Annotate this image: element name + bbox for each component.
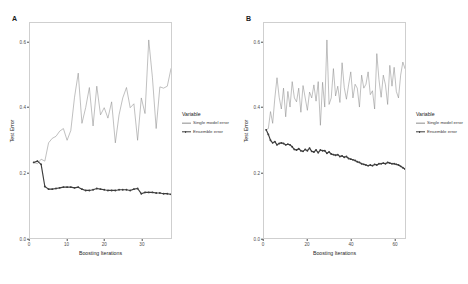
panel-b-point-ensemble-error [272, 142, 274, 144]
panel-a-series-group [33, 40, 171, 195]
panel-b-legend-label-ensemble: Ensemble error [427, 130, 457, 134]
panel-b-point-ensemble-error [382, 162, 384, 164]
panel-b-point-ensemble-error [306, 150, 308, 152]
panel-b-point-ensemble-error [402, 167, 404, 169]
panel-a-xtick-30: 30 [139, 242, 144, 247]
panel-b-point-ensemble-error [283, 143, 285, 145]
panel-b-legend: Variable Single model error Ensemble err… [416, 112, 468, 137]
panel-b-point-ensemble-error [372, 165, 374, 167]
panel-a-point-ensemble-error [51, 188, 53, 190]
panel-a-point-ensemble-error [36, 160, 38, 162]
panel-b-point-ensemble-error [354, 160, 356, 162]
panel-b-point-ensemble-error [315, 149, 317, 151]
panel-b-point-ensemble-error [400, 165, 402, 167]
panel-a-point-ensemble-error [48, 188, 50, 190]
panel-b-point-ensemble-error [304, 148, 306, 150]
panel-a-point-ensemble-error [85, 190, 87, 192]
panel-b-point-ensemble-error [293, 148, 295, 150]
panel-b-point-ensemble-error [395, 163, 397, 165]
panel-b-point-ensemble-error [332, 154, 334, 156]
panel-a-point-ensemble-error [155, 192, 157, 194]
panel-a-point-ensemble-error [77, 186, 79, 188]
panel-b-x-axis-title: Boosting Iterations [263, 250, 406, 256]
panel-a-xtickmark-0 [29, 239, 30, 241]
panel-a-legend-label-single: Single model error [193, 121, 229, 125]
panel-a-point-ensemble-error [114, 190, 116, 192]
panel-b-tag: B [246, 15, 251, 22]
panel-b-point-ensemble-error [309, 147, 311, 149]
panel-b-y-axis-title-wrap: Test Error [251, 22, 252, 239]
panel-b-point-ensemble-error [385, 163, 387, 165]
panel-b-point-ensemble-error [328, 151, 330, 153]
panel-a-point-ensemble-error [159, 192, 161, 194]
panel-a-xtick-10: 10 [64, 242, 69, 247]
panel-a-point-ensemble-error [92, 189, 94, 191]
panel-b-point-ensemble-error [322, 150, 324, 152]
panel-b-point-ensemble-error [330, 153, 332, 155]
panel-b-point-ensemble-error [267, 133, 269, 135]
panel-b-point-ensemble-error [356, 161, 358, 163]
panel-a-point-ensemble-error [163, 193, 165, 195]
panel-a-point-ensemble-error [96, 188, 98, 190]
panel-a-plot-area [29, 22, 172, 239]
panel-a-legend-item-single-model-error[interactable]: Single model error [182, 120, 234, 126]
panel-b-point-ensemble-error [380, 163, 382, 165]
panel-a-x-axis-title: Boosting Iterations [29, 250, 172, 256]
panel-b-legend-item-ensemble-error[interactable]: Ensemble error [416, 129, 468, 135]
single-model-error-line-icon [416, 120, 425, 126]
panel-a-plot-svg [30, 23, 171, 238]
panel-a-xtickmark-30 [142, 239, 143, 241]
panel-b-point-ensemble-error [389, 162, 391, 164]
panel-a-point-ensemble-error [122, 189, 124, 191]
panel-b-legend-item-single-model-error[interactable]: Single model error [416, 120, 468, 126]
panel-b-series-group [265, 40, 405, 170]
panel-b-point-ensemble-error [341, 155, 343, 157]
panel-a-legend-item-ensemble-error[interactable]: Ensemble error [182, 129, 234, 135]
panel-a-point-ensemble-error [74, 187, 76, 189]
panel-b-point-ensemble-error [296, 149, 298, 151]
panel-a-point-ensemble-error [166, 193, 168, 195]
panel-a-legend-label-ensemble: Ensemble error [193, 130, 223, 134]
panel-a-point-ensemble-error [70, 186, 72, 188]
panel-b-point-ensemble-error [270, 139, 272, 141]
panel-a-xtick-0: 0 [28, 242, 31, 247]
panel-b-point-ensemble-error [298, 148, 300, 150]
panel-b-line-single-model-error [266, 40, 405, 130]
panel-a-y-axis-title-wrap: Test Error [17, 22, 18, 239]
panel-a-legend: Variable Single model error Ensemble err… [182, 112, 234, 137]
panel-a-point-ensemble-error [126, 189, 128, 191]
panel-b-point-ensemble-error [352, 159, 354, 161]
panel-b-point-ensemble-error [300, 150, 302, 152]
panel-a-point-ensemble-error [137, 188, 139, 190]
panel-a-point-ensemble-error [107, 190, 109, 192]
panel-b-point-ensemble-error [376, 164, 378, 166]
panel-b-point-ensemble-error [319, 149, 321, 151]
panel-b-xtickmark-0 [263, 239, 264, 241]
panel-b-y-axis-title: Test Error [243, 119, 249, 141]
panel-b-point-ensemble-error [393, 163, 395, 165]
panel-a-point-ensemble-error [144, 191, 146, 193]
panel-a-point-ensemble-error [148, 191, 150, 193]
panel-b-point-ensemble-error [359, 161, 361, 163]
panel-b-legend-label-single: Single model error [427, 121, 463, 125]
panel-a: A 0.00.20.40.6 Test Error 0102030 Boosti… [0, 0, 234, 284]
panel-a-point-ensemble-error [66, 186, 68, 188]
panel-b-point-ensemble-error [369, 164, 371, 166]
panel-a-xtick-20: 20 [102, 242, 107, 247]
panel-b-point-ensemble-error [363, 163, 365, 165]
panel-b-xtickmark-20 [307, 239, 308, 241]
panel-a-tag: A [12, 15, 17, 22]
panel-a-xtickmark-10 [66, 239, 67, 241]
panel-a-point-ensemble-error [55, 188, 57, 190]
panel-b-xtick-60: 60 [392, 242, 397, 247]
panel-a-point-ensemble-error [152, 191, 154, 193]
panel-a-xtickmark-20 [104, 239, 105, 241]
panel-b-point-ensemble-error [337, 154, 339, 156]
panel-b-plot-area [263, 22, 406, 239]
panel-a-point-ensemble-error [133, 188, 135, 190]
panel-a-point-ensemble-error [44, 186, 46, 188]
panel-b-point-ensemble-error [367, 165, 369, 167]
panel-a-point-ensemble-error [88, 190, 90, 192]
panel-b-point-ensemble-error [317, 152, 319, 154]
panel-b-point-ensemble-error [398, 164, 400, 166]
